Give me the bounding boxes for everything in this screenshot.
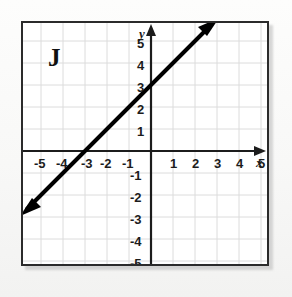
x-tick-label--5: -5 <box>34 157 46 170</box>
y-axis-arrowhead <box>146 24 156 36</box>
y-tick-label--4: -4 <box>130 235 142 248</box>
y-tick-label-3: 3 <box>137 81 144 94</box>
x-tick-label-1: 1 <box>170 157 177 170</box>
graph-label: J <box>48 45 61 70</box>
x-tick-label--2: -2 <box>100 157 112 170</box>
graph-figure: J -5 -4 -3 -2 -1 1 2 3 4 5 5 4 3 2 1 -1 … <box>0 0 292 297</box>
y-axis-label: y <box>139 27 145 40</box>
x-tick-label--4: -4 <box>56 157 68 170</box>
coordinate-plane: J -5 -4 -3 -2 -1 1 2 3 4 5 5 4 3 2 1 -1 … <box>21 21 269 266</box>
y-tick-label-1: 1 <box>137 125 144 138</box>
x-tick-label-4: 4 <box>236 157 243 170</box>
y-tick-label--2: -2 <box>130 191 142 204</box>
x-axis-label: x <box>256 156 263 169</box>
y-tick-label--5: -5 <box>130 257 142 266</box>
y-tick-label-4: 4 <box>137 59 144 72</box>
y-tick-label--3: -3 <box>130 213 142 226</box>
line-arrowhead-start <box>23 198 41 216</box>
y-tick-label-2: 2 <box>137 103 144 116</box>
x-tick-label-3: 3 <box>214 157 221 170</box>
x-tick-label-2: 2 <box>192 157 199 170</box>
y-tick-label--1: -1 <box>130 169 142 182</box>
x-tick-label--3: -3 <box>81 157 93 170</box>
